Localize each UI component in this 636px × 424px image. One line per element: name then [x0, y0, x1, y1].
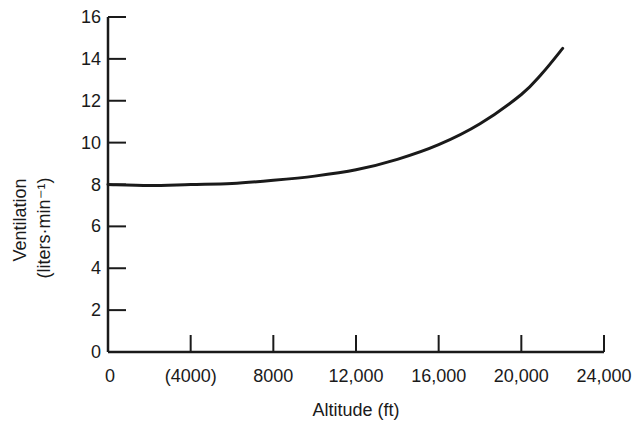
y-axis-title: Ventilation	[10, 178, 30, 261]
y-tick-label: 6	[91, 216, 101, 236]
x-tick-label: 8000	[253, 366, 293, 386]
y-tick-label: 14	[81, 49, 101, 69]
y-tick-label: 4	[91, 258, 101, 278]
y-tick-label: 16	[81, 7, 101, 27]
x-tick-label: 20,000	[494, 366, 549, 386]
x-axis-ticks: 0(4000)800012,00016,00020,00024,000	[105, 335, 632, 386]
x-tick-label: 0	[105, 366, 115, 386]
x-axis-title: Altitude (ft)	[312, 400, 399, 420]
x-tick-label: 12,000	[328, 366, 383, 386]
y-tick-label: 8	[91, 175, 101, 195]
ventilation-curve	[108, 48, 563, 185]
x-tick-label: 24,000	[576, 366, 631, 386]
y-tick-label: 0	[91, 342, 101, 362]
ventilation-altitude-chart: 0246810121416 0(4000)800012,00016,00020,…	[0, 0, 636, 424]
y-axis-units: (liters·min⁻¹)	[34, 178, 54, 279]
y-tick-label: 12	[81, 91, 101, 111]
y-tick-label: 2	[91, 300, 101, 320]
x-tick-label: 16,000	[411, 366, 466, 386]
y-tick-label: 10	[81, 133, 101, 153]
x-tick-label: (4000)	[165, 366, 217, 386]
